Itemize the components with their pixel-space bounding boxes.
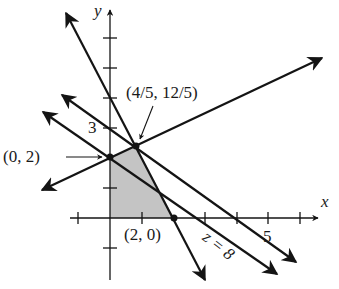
objective-line-z8 (43, 112, 277, 274)
x-axis-label: x (321, 193, 329, 210)
vertex-label-4-5-12-5: (4/5, 12/5) (126, 84, 198, 101)
pointer-arrow-4-5-12-5 (140, 106, 153, 139)
objective-line-max (62, 95, 296, 262)
vertex-0-2 (107, 154, 114, 161)
graph-canvas (0, 0, 339, 289)
y-tick-label-3: 3 (88, 119, 97, 136)
x-tick-label-5: 5 (263, 228, 272, 245)
x-axis (70, 212, 318, 224)
y-axis (103, 10, 117, 280)
vertex-label-0-2: (0, 2) (3, 148, 40, 165)
vertex-2-0 (171, 215, 178, 222)
vertex-4-5-12-5 (133, 143, 140, 150)
constraint-line-rising (42, 58, 322, 190)
vertex-label-2-0: (2, 0) (124, 226, 161, 243)
y-axis-label: y (94, 2, 102, 19)
lp-graph: y x 3 5 (0, 2) (4/5, 12/5) (2, 0) z = 8 (0, 0, 339, 289)
